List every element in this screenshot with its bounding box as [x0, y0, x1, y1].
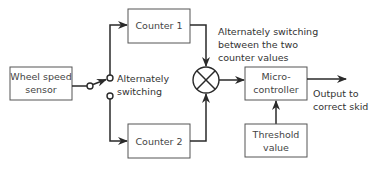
counter2-label: Counter 2 — [135, 136, 182, 147]
threshold-label-line1: Threshold — [252, 129, 300, 140]
counter1-block: Counter 1 — [128, 9, 190, 43]
counter2-to-comparator-arrow — [190, 94, 206, 141]
switch-note-line1: Alternately — [117, 73, 169, 84]
sensor-label-line2: sensor — [25, 84, 57, 95]
comparator-note-line3: counter values — [218, 52, 289, 63]
comparator-annotation: Alternately switching between the two co… — [218, 26, 318, 63]
comparator-note-line1: Alternately switching — [218, 26, 318, 37]
threshold-value-block: Threshold value — [245, 124, 307, 157]
sensor-label-line1: Wheel speed — [10, 71, 71, 82]
counter1-label: Counter 1 — [135, 20, 182, 31]
skid-detection-diagram: Wheel speed sensor Alternately switching… — [0, 0, 369, 171]
counter1-to-comparator-arrow — [190, 25, 206, 66]
switch-icon — [87, 75, 113, 99]
comparator-x-circle-icon — [193, 67, 219, 93]
wheel-speed-sensor-block: Wheel speed sensor — [10, 67, 72, 100]
comparator-note-line2: between the two — [218, 39, 298, 50]
output-annotation: Output to correct skid — [313, 88, 368, 112]
switch-to-counter2-arrow — [110, 99, 127, 141]
switch-note-line2: switching — [117, 86, 162, 97]
switch-annotation: Alternately switching — [117, 73, 169, 97]
microcontroller-label-line1: Micro- — [261, 71, 290, 82]
threshold-label-line2: value — [263, 142, 289, 153]
switch-to-counter1-arrow — [110, 25, 127, 75]
microcontroller-label-line2: controller — [253, 84, 298, 95]
output-note-line1: Output to — [313, 88, 359, 99]
output-note-line2: correct skid — [313, 101, 368, 112]
counter2-block: Counter 2 — [128, 124, 190, 158]
microcontroller-block: Micro- controller — [245, 67, 307, 100]
